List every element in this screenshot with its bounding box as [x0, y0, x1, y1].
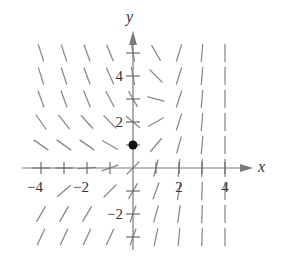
slope-segment — [178, 206, 180, 223]
x-axis-arrow-icon — [240, 164, 253, 172]
slope-segment — [201, 91, 202, 108]
slope-segment — [38, 45, 43, 61]
slope-segment — [80, 140, 94, 150]
slope-segment — [107, 45, 113, 61]
slope-segment — [37, 207, 46, 222]
slope-segment — [37, 229, 44, 244]
slope-segment — [152, 46, 161, 61]
slope-segment — [202, 206, 203, 223]
slope-segment — [61, 45, 66, 61]
slope-segment — [153, 183, 159, 199]
slope-segment — [148, 97, 164, 101]
x-tick-label: −2 — [73, 179, 89, 195]
slope-segment — [177, 137, 181, 153]
x-axis-label: x — [257, 158, 265, 175]
slope-segment — [104, 116, 116, 128]
slope-segment — [178, 229, 179, 246]
slope-segment — [60, 229, 67, 244]
slope-segment — [154, 229, 158, 246]
slope-segment — [151, 139, 162, 152]
slope-segment — [38, 91, 44, 107]
slope-segment — [81, 116, 92, 129]
x-tick-label: 4 — [221, 179, 229, 195]
slope-segment — [202, 229, 203, 246]
initial-point — [129, 141, 138, 150]
slope-segment — [60, 207, 69, 222]
slope-segment — [106, 92, 114, 107]
slope-segment — [58, 186, 71, 197]
slope-segment — [201, 45, 202, 62]
slope-segment — [176, 114, 181, 130]
slope-segment — [201, 68, 202, 85]
x-tick-label: 2 — [175, 179, 183, 195]
slope-segment — [61, 91, 67, 107]
slope-segment — [84, 91, 90, 107]
slope-segment — [106, 229, 113, 244]
slope-segment — [83, 207, 92, 222]
slope-segment — [61, 68, 66, 84]
slope-segment — [59, 115, 69, 128]
slope-segment — [34, 140, 48, 150]
slope-segment — [176, 91, 181, 107]
x-tick-label: −4 — [27, 179, 43, 195]
y-axis-arrow-icon — [129, 31, 137, 45]
slope-segment — [84, 68, 90, 84]
y-tick-label: 2 — [116, 114, 124, 130]
slope-segment — [150, 70, 162, 82]
slope-segment — [104, 185, 116, 197]
slope-segment — [38, 68, 43, 84]
y-axis-label: y — [124, 8, 134, 26]
y-tick-label: −2 — [107, 206, 123, 222]
slope-segment — [176, 45, 181, 61]
slope-segment — [103, 141, 118, 150]
y-tick-label: 4 — [116, 68, 124, 84]
slope-segment — [149, 118, 164, 127]
slope-segment — [84, 45, 90, 61]
slope-segment — [202, 183, 203, 200]
slope-segment — [176, 68, 181, 84]
slope-segment — [83, 229, 90, 244]
slope-segment — [107, 68, 114, 84]
slope-segment — [36, 115, 46, 129]
slope-segment — [201, 137, 202, 154]
slope-segment — [57, 140, 71, 150]
slope-segment — [154, 206, 158, 222]
slope-segment — [201, 114, 202, 131]
slope-field-diagram: −4−22442−2 x y — [0, 0, 283, 262]
